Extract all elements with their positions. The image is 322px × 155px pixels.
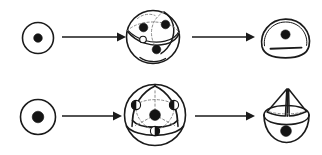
open-point (140, 36, 147, 43)
marked-point (281, 30, 290, 39)
stage-bowl-with-cone-quotient (264, 89, 309, 143)
back-equator-arc (127, 22, 179, 33)
row-top (23, 11, 310, 64)
open-point (150, 126, 159, 135)
cone-right-face (289, 89, 307, 116)
stage-dome-quotient-with-slit (262, 19, 310, 58)
open-point (169, 100, 178, 109)
marked-point (152, 45, 161, 54)
row-bottom (21, 85, 310, 146)
right-seam (178, 121, 179, 127)
arrow-stage1-to-stage2 (62, 112, 122, 121)
sphere-outline (127, 11, 180, 64)
arrow-stage2-to-stage3 (195, 112, 255, 121)
cone-center-seam (287, 89, 288, 116)
stage-sphere-with-inscribed-triangle (125, 85, 186, 146)
marked-point (34, 34, 43, 43)
arrow-head-icon (113, 112, 122, 121)
upper-guide-arc (138, 14, 156, 18)
open-point (131, 100, 140, 109)
stage-small-circle-with-center-point (23, 23, 54, 54)
stage-circle-with-center-point (21, 100, 56, 135)
arrow-head-icon (246, 33, 255, 42)
figure-root (0, 0, 322, 155)
left-seam (132, 121, 133, 127)
arrow-head-icon (117, 33, 126, 42)
sphere-transformation-diagram (0, 0, 322, 155)
arrow-stage1-to-stage2 (62, 33, 126, 42)
cut-slit (271, 48, 302, 49)
marked-point (161, 20, 170, 29)
marked-point (32, 111, 44, 123)
arrow-stage2-to-stage3 (192, 33, 255, 42)
marked-point (150, 110, 161, 121)
arrow-head-icon (246, 112, 255, 121)
stage-sphere-with-great-circles (127, 11, 180, 64)
marked-point (139, 23, 148, 32)
bottom-seam-arc (140, 58, 166, 62)
marked-point (281, 126, 292, 137)
